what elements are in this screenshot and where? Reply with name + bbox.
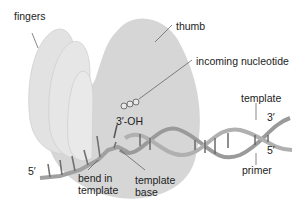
label-template-base-line2: base	[135, 186, 175, 198]
label-incoming-nucleotide: incoming nucleotide	[196, 55, 289, 67]
label-fingers: fingers	[14, 10, 46, 22]
label-primer: primer	[242, 164, 272, 176]
label-3-oh: 3′-OH	[116, 115, 143, 127]
label-5prime-right: 5′	[267, 144, 275, 156]
label-bend-in-template: bend in template	[78, 172, 118, 196]
label-bend-line2: template	[78, 184, 118, 196]
label-5prime-left: 5′	[28, 165, 36, 177]
label-bend-line1: bend in	[78, 172, 118, 184]
label-template-base: template base	[135, 174, 175, 198]
label-template-base-line1: template	[135, 174, 175, 186]
label-template-top: template	[241, 92, 281, 104]
label-thumb: thumb	[176, 20, 205, 32]
label-3prime-top: 3′	[267, 111, 275, 123]
